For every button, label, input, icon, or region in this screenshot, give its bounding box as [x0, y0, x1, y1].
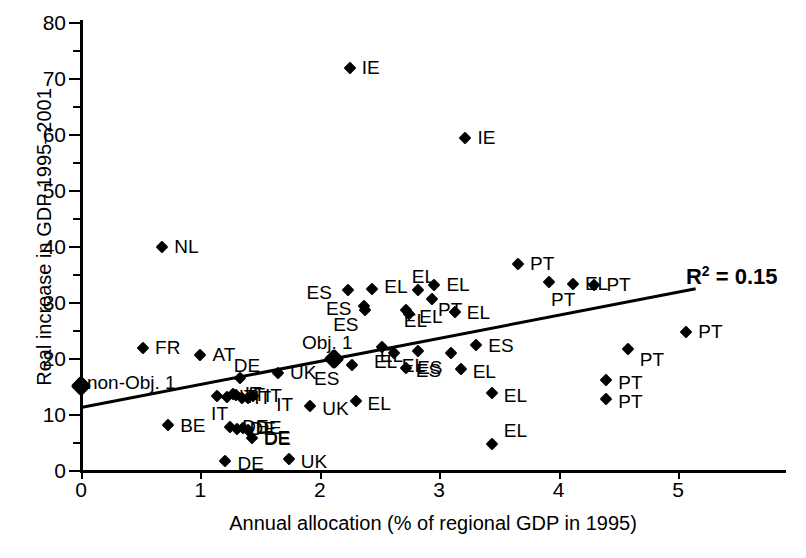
- data-point: [485, 387, 498, 400]
- y-tick-label: 0: [24, 460, 66, 481]
- data-point-label: IE: [362, 58, 380, 77]
- data-point-label: ES: [416, 361, 441, 380]
- data-point: [459, 132, 472, 145]
- r-squared-exponent: 2: [702, 263, 710, 279]
- x-axis-title: Annual allocation (% of regional GDP in …: [80, 512, 786, 534]
- data-point-label: IT: [211, 404, 228, 423]
- y-tick-major: [69, 22, 80, 24]
- data-point: [600, 374, 613, 387]
- x-tick-label: 0: [61, 478, 101, 502]
- data-point-label: EL: [504, 421, 527, 440]
- y-tick-major: [69, 302, 80, 304]
- data-point: [156, 241, 169, 254]
- data-point: [346, 358, 359, 371]
- data-point-label: DE: [237, 454, 263, 473]
- y-axis-line: [80, 20, 83, 472]
- data-point-label: BE: [180, 416, 205, 435]
- y-tick-minor: [73, 106, 80, 108]
- r-squared-value: = 0.15: [710, 265, 778, 290]
- data-point: [543, 276, 556, 289]
- data-point-label: PT: [606, 275, 630, 294]
- data-point-label: FR: [155, 338, 180, 357]
- y-axis-title: Real increase in GDP 1995–2001: [33, 27, 55, 447]
- data-point: [445, 347, 458, 360]
- data-point-label: EL: [368, 394, 391, 413]
- r-squared-text: R: [686, 265, 702, 290]
- data-point: [485, 438, 498, 451]
- data-point-label: PT: [618, 373, 642, 392]
- data-point-label: DE: [264, 428, 290, 447]
- data-point-label: NL: [174, 237, 198, 256]
- data-point: [343, 62, 356, 75]
- data-point-label: PT: [551, 290, 575, 309]
- y-tick-minor: [73, 50, 80, 52]
- data-point: [567, 277, 580, 290]
- data-point-label: ES: [333, 315, 358, 334]
- data-point-label: PT: [530, 254, 554, 273]
- y-tick-major: [69, 358, 80, 360]
- y-tick-major: [69, 414, 80, 416]
- data-point: [600, 393, 613, 406]
- x-tick-label: 4: [539, 478, 579, 502]
- data-point-label: EL: [446, 275, 469, 294]
- data-point-label: IT: [265, 386, 282, 405]
- data-point-label: IE: [477, 128, 495, 147]
- data-point: [454, 362, 467, 375]
- data-point-label: EL: [473, 362, 496, 381]
- data-point-label: PT: [698, 322, 722, 341]
- data-point: [342, 283, 355, 296]
- data-point: [426, 293, 439, 306]
- data-point: [470, 339, 483, 352]
- y-tick-major: [69, 78, 80, 80]
- data-point: [282, 453, 295, 466]
- y-tick-major: [69, 134, 80, 136]
- data-point: [219, 455, 232, 468]
- y-tick-major: [69, 190, 80, 192]
- data-point: [162, 418, 175, 431]
- y-tick-minor: [73, 162, 80, 164]
- data-point-label: EL: [419, 307, 442, 326]
- r-squared-annotation: R2 = 0.15: [686, 260, 778, 288]
- data-point-label: UK: [301, 452, 327, 471]
- data-point: [512, 258, 525, 271]
- data-point-label: EL: [467, 303, 490, 322]
- data-point-label: EL: [504, 386, 527, 405]
- non-obj-1-label: non-Obj. 1: [87, 373, 176, 392]
- data-point: [304, 399, 317, 412]
- data-point-label: EL: [384, 277, 407, 296]
- data-point-label: UK: [322, 399, 348, 418]
- data-point: [680, 326, 693, 339]
- x-tick-label: 2: [300, 478, 340, 502]
- scatter-plot-area: 01020304050607080 012345 Real increase i…: [0, 0, 806, 558]
- data-point-label: ES: [488, 336, 513, 355]
- data-point-label: EL: [412, 267, 435, 286]
- y-tick-minor: [73, 274, 80, 276]
- data-point-label: AT: [212, 345, 235, 364]
- data-point: [137, 342, 150, 355]
- data-point-label: PT: [640, 350, 664, 369]
- obj-1-label: Obj. 1: [302, 333, 353, 352]
- x-tick-label: 3: [419, 478, 459, 502]
- y-tick-minor: [73, 442, 80, 444]
- data-point: [349, 394, 362, 407]
- data-point-label: PT: [618, 392, 642, 411]
- y-tick-major: [69, 246, 80, 248]
- data-point: [366, 283, 379, 296]
- x-tick-label: 5: [658, 478, 698, 502]
- data-point-label: ES: [314, 369, 339, 388]
- x-axis-line: [80, 470, 786, 473]
- y-tick-minor: [73, 330, 80, 332]
- data-point: [621, 343, 634, 356]
- y-tick-major: [69, 470, 80, 472]
- y-tick-minor: [73, 218, 80, 220]
- data-point: [194, 349, 207, 362]
- chart-figure: 01020304050607080 012345 Real increase i…: [0, 0, 806, 558]
- x-tick-label: 1: [180, 478, 220, 502]
